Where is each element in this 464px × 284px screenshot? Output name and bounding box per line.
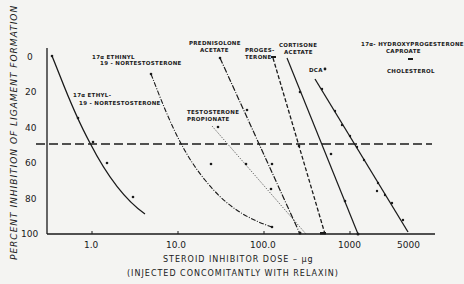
svg-text:PREDNISOLONE: PREDNISOLONE xyxy=(189,40,241,46)
chart: PERCENT INHIBITION OF LIGAMENT FORMATION… xyxy=(0,0,464,284)
svg-text:PROGES-: PROGES- xyxy=(245,47,275,53)
series-testosterone-propionate xyxy=(212,126,306,234)
svg-text:60: 60 xyxy=(25,158,37,168)
points-ethyl xyxy=(51,55,135,199)
svg-text:ACETATE: ACETATE xyxy=(284,49,313,55)
svg-text:1000: 1000 xyxy=(338,240,361,250)
svg-text:1.0: 1.0 xyxy=(84,240,99,250)
svg-text:CHOLESTEROL: CHOLESTEROL xyxy=(387,68,435,74)
svg-text:ACETATE: ACETATE xyxy=(200,47,229,53)
svg-text:TERONE: TERONE xyxy=(245,54,272,60)
svg-text:5000: 5000 xyxy=(397,240,420,250)
svg-text:TESTOSTERONE: TESTOSTERONE xyxy=(187,109,239,115)
y-axis-label: PERCENT INHIBITION OF LIGAMENT FORMATION xyxy=(9,5,19,260)
marker-hydroxyprogesterone xyxy=(408,58,413,60)
svg-text:CAPROATE: CAPROATE xyxy=(386,48,421,54)
y-ticks: 0 20 40 60 80 100 xyxy=(21,52,38,239)
svg-text:CORTISONE: CORTISONE xyxy=(279,42,317,48)
svg-text:DCA: DCA xyxy=(309,67,323,73)
x-tick-labels: 1.0 10.0 100.0 1000 5000 xyxy=(84,240,420,250)
series-dca xyxy=(315,79,408,232)
series-ethyl-nortestosterone xyxy=(52,56,145,214)
svg-text:17α ETHYL-: 17α ETHYL- xyxy=(73,92,111,98)
svg-text:0: 0 xyxy=(27,52,33,62)
svg-text:20: 20 xyxy=(25,87,37,97)
svg-text:19 - NORTESTOSTERONE: 19 - NORTESTOSTERONE xyxy=(79,100,161,106)
svg-text:10.0: 10.0 xyxy=(166,240,186,250)
svg-text:100.0: 100.0 xyxy=(250,240,276,250)
series-labels: 17α ETHYL- 19 - NORTESTOSTERONE 17α ETHI… xyxy=(73,40,464,122)
points-ethinyl xyxy=(150,73,274,229)
svg-text:100: 100 xyxy=(21,229,38,239)
series-cortisone-acetate xyxy=(287,58,358,234)
x-axis-label: STEROID INHIBITOR DOSE – µg xyxy=(163,255,314,264)
svg-text:17α- HYDROXYPROGESTERONE: 17α- HYDROXYPROGESTERONE xyxy=(361,41,464,47)
series-ethinyl-nortestosterone xyxy=(151,74,272,227)
points-testosterone xyxy=(217,126,273,191)
svg-text:80: 80 xyxy=(25,194,37,204)
svg-text:40: 40 xyxy=(25,123,37,133)
svg-text:19 - NORTESTOSTERONE: 19 - NORTESTOSTERONE xyxy=(100,60,182,66)
svg-text:PROPIONATE: PROPIONATE xyxy=(187,116,230,122)
x-axis-sublabel: (INJECTED CONCOMITANTLY WITH RELAXIN) xyxy=(127,269,339,278)
series-prednisolone-acetate xyxy=(220,58,300,234)
